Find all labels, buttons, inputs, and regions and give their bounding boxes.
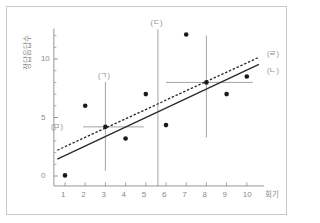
x-tick-label: 5 [142,191,146,199]
data-point [144,92,149,97]
x-tick-label: 3 [101,191,105,199]
x-tick-label: 8 [202,191,206,199]
x-tick-label: 10 [243,191,252,199]
plot-annotation: (ㄷ) [150,19,162,27]
plot-annotation: (ㄴ) [267,67,279,75]
data-point [224,92,229,97]
data-point [63,173,68,178]
data-point [245,74,250,79]
x-tick-label: 1 [61,191,65,199]
y-tick-label: 5 [41,114,45,122]
x-tick-label: 2 [81,191,85,199]
plot-annotation: (ㄹ) [267,50,279,58]
x-axis-title: 회기 [265,191,279,199]
data-point [123,136,128,141]
x-tick-label: 6 [162,191,166,199]
x-tick-label: 7 [182,191,186,199]
data-point [204,80,209,85]
data-points-group [63,32,249,178]
data-point [184,32,189,37]
y-tick-label: 0 [41,172,45,180]
data-point [164,123,169,128]
plot-annotation: (ㄱ) [98,72,110,80]
data-point [103,125,108,130]
plot-annotation: (ㅁ) [51,123,63,131]
x-tick-label: 4 [122,191,126,199]
marker-lines-group [83,29,253,186]
data-point [83,104,88,109]
y-axis-title: 정답음답수 [24,35,32,70]
y-tick-label: 10 [41,55,50,63]
x-tick-label: 9 [223,191,227,199]
